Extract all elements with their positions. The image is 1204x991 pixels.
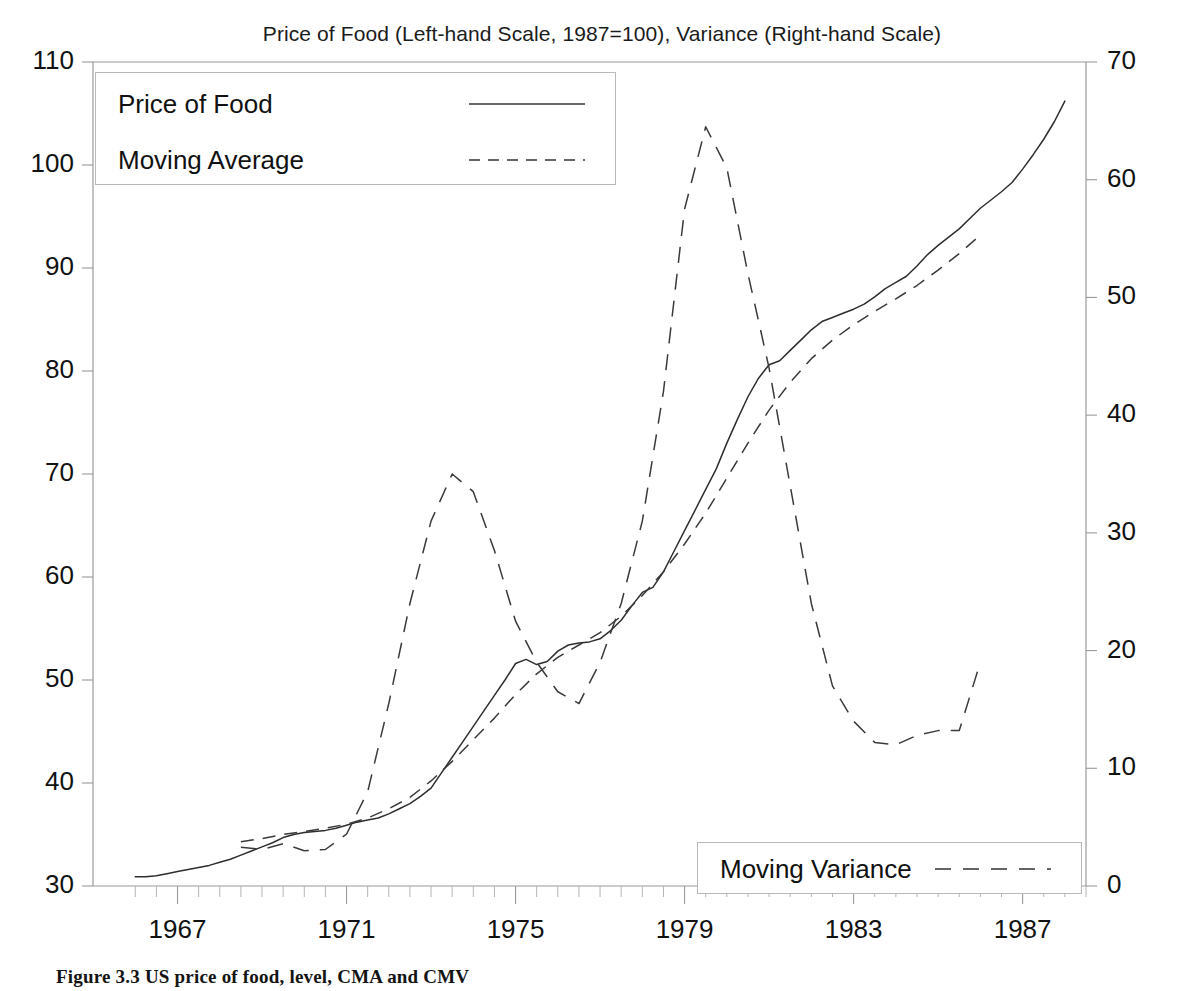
legend-item[interactable]: Moving Variance bbox=[698, 846, 1081, 892]
y-tick-label-left: 50 bbox=[4, 663, 74, 694]
y-tick-label-left: 40 bbox=[4, 766, 74, 797]
y-tick-label-left: 100 bbox=[4, 148, 74, 179]
legend-item[interactable]: Price of Food bbox=[96, 81, 615, 127]
x-tick-label: 1979 bbox=[625, 914, 745, 945]
legend-line-sample-icon bbox=[467, 153, 587, 167]
series-line-price-of-food bbox=[135, 101, 1065, 877]
x-tick-label: 1971 bbox=[287, 914, 407, 945]
y-tick-label-left: 30 bbox=[4, 869, 74, 900]
figure-caption: Figure 3.3 US price of food, level, CMA … bbox=[56, 966, 469, 988]
y-tick-label-left: 60 bbox=[4, 560, 74, 591]
y-tick-label-left: 70 bbox=[4, 457, 74, 488]
y-tick-label-right: 60 bbox=[1107, 163, 1177, 194]
y-tick-label-left: 80 bbox=[4, 354, 74, 385]
legend-item-label: Moving Variance bbox=[720, 854, 912, 885]
y-tick-label-right: 30 bbox=[1107, 516, 1177, 547]
legend-item[interactable]: Moving Average bbox=[96, 137, 615, 183]
series-line-moving-variance bbox=[241, 127, 980, 851]
legend-item-label: Price of Food bbox=[118, 89, 273, 120]
y-tick-label-right: 40 bbox=[1107, 398, 1177, 429]
y-tick-label-right: 10 bbox=[1107, 751, 1177, 782]
series-line-moving-average bbox=[241, 235, 980, 842]
legend-line-sample-icon bbox=[933, 862, 1053, 876]
legend-line-sample-icon bbox=[467, 97, 587, 111]
legend-bottom: Moving Variance bbox=[697, 842, 1082, 894]
x-tick-label: 1987 bbox=[963, 914, 1083, 945]
x-tick-label: 1967 bbox=[118, 914, 238, 945]
y-tick-label-left: 110 bbox=[4, 45, 74, 76]
y-tick-label-right: 20 bbox=[1107, 634, 1177, 665]
x-tick-label: 1975 bbox=[456, 914, 576, 945]
y-tick-label-right: 0 bbox=[1107, 869, 1177, 900]
y-tick-label-left: 90 bbox=[4, 251, 74, 282]
figure-container: Price of Food (Left-hand Scale, 1987=100… bbox=[0, 0, 1204, 991]
y-tick-label-right: 70 bbox=[1107, 45, 1177, 76]
legend-top: Price of FoodMoving Average bbox=[95, 72, 616, 185]
y-tick-label-right: 50 bbox=[1107, 280, 1177, 311]
legend-item-label: Moving Average bbox=[118, 145, 304, 176]
x-tick-label: 1983 bbox=[794, 914, 914, 945]
